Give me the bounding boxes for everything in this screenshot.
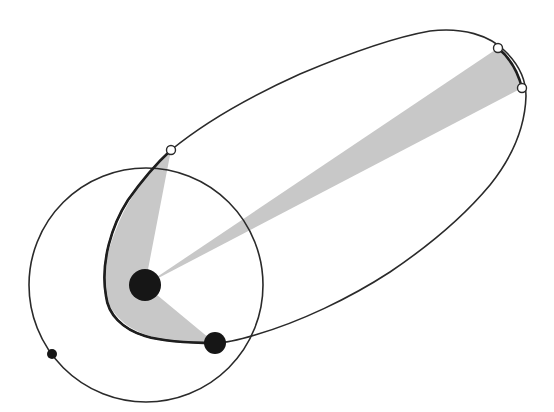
far-sector xyxy=(145,48,522,285)
marker-far-2 xyxy=(518,84,527,93)
near-sun-sector xyxy=(104,150,215,343)
kepler-diagram xyxy=(0,0,554,412)
marker-far-1 xyxy=(494,44,503,53)
planet-icon xyxy=(204,332,226,354)
sun-icon xyxy=(129,269,161,301)
circular-orbit-body-icon xyxy=(47,349,57,359)
diagram-canvas xyxy=(0,0,554,412)
marker-near xyxy=(167,146,176,155)
